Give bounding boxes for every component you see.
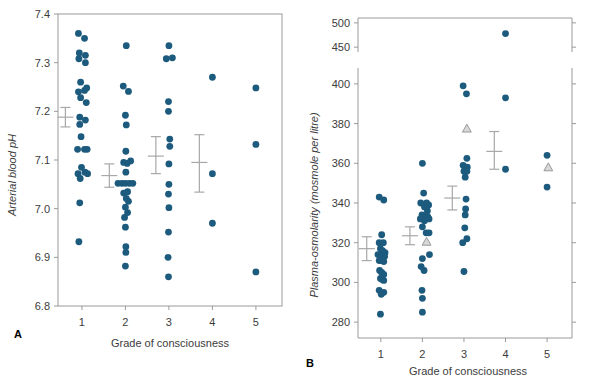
data-point: [82, 59, 89, 66]
data-point: [122, 263, 129, 270]
data-point: [378, 231, 385, 238]
data-point: [123, 122, 130, 129]
panel-a-x-tick-label: 4: [209, 316, 215, 328]
panel-b-y-tick-label-upper: 500: [332, 17, 350, 29]
panel-b-x-tick-label: 5: [544, 348, 550, 360]
data-point: [419, 223, 426, 230]
data-point: [426, 215, 433, 222]
data-point: [165, 98, 172, 105]
data-point: [165, 229, 172, 236]
data-point: [75, 238, 82, 245]
data-point: [380, 239, 387, 246]
data-point: [419, 287, 426, 294]
data-point: [165, 191, 172, 198]
data-point: [124, 188, 131, 195]
data-point: [419, 255, 426, 262]
data-point: [75, 88, 82, 95]
panel-b-svg: 280300320340360380400 450500 12345 Plasm…: [296, 0, 592, 383]
data-point: [253, 141, 260, 148]
data-point: [76, 50, 83, 57]
panel-b-y-tick-label: 380: [332, 118, 350, 130]
data-point: [419, 295, 426, 302]
data-point: [253, 269, 260, 276]
data-point: [76, 121, 83, 128]
data-point: [165, 254, 172, 261]
panel-a-x-axis-title: Grade of consciousness: [111, 337, 230, 349]
error-bar: [57, 107, 73, 126]
data-point: [84, 170, 91, 177]
data-point: [253, 85, 260, 92]
panel-b-y-tick-label: 340: [332, 197, 350, 209]
data-point: [169, 54, 176, 61]
panel-b-y-tick-label: 300: [332, 276, 350, 288]
data-point: [163, 55, 170, 62]
panel-a-y-tick-label: 7.4: [35, 8, 50, 20]
data-point: [166, 204, 173, 211]
data-point: [426, 229, 433, 236]
data-point: [380, 277, 387, 284]
data-point: [421, 267, 428, 274]
data-point: [127, 158, 134, 165]
data-point-triangle: [462, 124, 471, 132]
panel-b-y-axis-title: Plasma-osmolarity (mosmole per litre): [308, 112, 320, 298]
panel-a-y-tick-label: 6.9: [35, 251, 50, 263]
panel-a-svg: 6.86.97.07.17.27.37.4 12345 Arterial blo…: [0, 0, 296, 383]
data-point: [544, 152, 551, 159]
data-point: [380, 197, 387, 204]
data-point: [377, 311, 384, 318]
panel-b-plot-frame-upper: [358, 18, 572, 52]
data-point: [125, 198, 132, 205]
data-point: [165, 108, 172, 115]
data-point: [122, 224, 129, 231]
error-bar: [402, 227, 418, 245]
panel-a-x-ticks: 12345: [79, 306, 259, 328]
data-point: [460, 82, 467, 89]
data-point-triangle: [544, 163, 553, 171]
data-point: [166, 42, 173, 49]
data-point: [76, 199, 83, 206]
data-point: [124, 209, 131, 216]
error-bar: [486, 132, 502, 170]
panel-a: 6.86.97.07.17.27.37.4 12345 Arterial blo…: [0, 0, 296, 383]
data-point: [122, 169, 129, 176]
panel-a-y-tick-label: 6.8: [35, 300, 50, 312]
data-point: [81, 87, 88, 94]
panel-a-x-tick-label: 3: [166, 316, 172, 328]
data-point: [75, 30, 82, 37]
panel-b: 280300320340360380400 450500 12345 Plasm…: [296, 0, 592, 383]
data-point: [77, 175, 84, 182]
data-point-triangle: [422, 237, 431, 245]
data-point: [83, 99, 90, 106]
data-point: [209, 220, 216, 227]
panel-b-x-tick-label: 4: [502, 348, 508, 360]
data-point: [502, 94, 509, 101]
panel-a-y-tick-label: 7.2: [35, 105, 50, 117]
panel-a-y-tick-label: 7.1: [35, 154, 50, 166]
panel-a-y-tick-label: 7.3: [35, 57, 50, 69]
data-point: [122, 249, 129, 256]
panel-b-y-tick-label: 280: [332, 316, 350, 328]
panel-a-y-tick-label: 7.0: [35, 203, 50, 215]
panel-a-y-axis-title: Arterial blood pH: [6, 134, 18, 217]
error-bar: [191, 135, 207, 192]
data-point: [462, 212, 469, 219]
data-point: [77, 79, 84, 86]
data-point: [81, 35, 88, 42]
data-point: [82, 117, 89, 124]
panel-b-plot-frame-main: [358, 68, 572, 338]
data-point: [75, 55, 82, 62]
data-point: [82, 52, 89, 59]
data-point: [165, 273, 172, 280]
data-point: [502, 166, 509, 173]
data-point: [502, 30, 509, 37]
panel-b-y-tick-label-upper: 450: [332, 41, 350, 53]
panel-b-x-ticks: 12345: [378, 338, 550, 360]
figure-container: 6.86.97.07.17.27.37.4 12345 Arterial blo…: [0, 0, 592, 383]
data-point: [461, 268, 468, 275]
panel-a-letter: A: [14, 328, 22, 340]
data-point: [122, 243, 129, 250]
data-point: [426, 251, 433, 258]
panel-a-x-tick-label: 2: [122, 316, 128, 328]
panel-b-x-tick-label: 2: [419, 348, 425, 360]
data-point: [84, 146, 91, 153]
